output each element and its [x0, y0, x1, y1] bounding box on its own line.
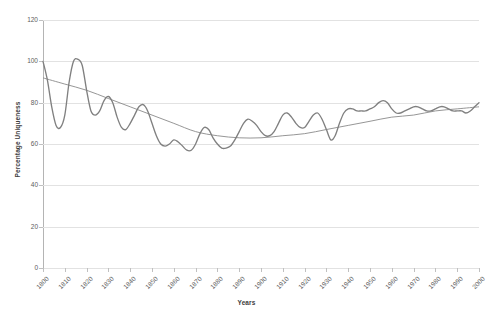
- y-axis-title: Percentage Uniqueness: [14, 80, 21, 200]
- x-axis-tick-label: 1860: [159, 275, 181, 297]
- x-axis-tick-label: 1870: [181, 275, 203, 297]
- chart-container: 020406080100120 180018101820183018401850…: [0, 0, 493, 322]
- plot-area: [43, 20, 479, 268]
- x-axis-tick-label: 1970: [399, 275, 421, 297]
- x-axis-tick: [152, 268, 153, 272]
- data-line: [43, 59, 479, 151]
- x-axis-tick: [65, 268, 66, 272]
- y-axis-tick-label: 40: [4, 181, 38, 188]
- x-axis-tick-label: 1900: [246, 275, 268, 297]
- x-axis-tick: [261, 268, 262, 272]
- y-axis-tick-label: 0: [4, 264, 38, 271]
- x-axis-tick-label: 1880: [202, 275, 224, 297]
- trend-line: [43, 78, 479, 138]
- x-axis-tick: [457, 268, 458, 272]
- y-axis-tick-label: 20: [4, 223, 38, 230]
- x-axis-tick: [108, 268, 109, 272]
- x-axis-title: Years: [0, 299, 493, 306]
- x-axis-tick: [239, 268, 240, 272]
- x-axis-tick-label: 1920: [290, 275, 312, 297]
- x-axis-tick: [435, 268, 436, 272]
- x-axis-tick: [130, 268, 131, 272]
- x-axis-tick-label: 1890: [224, 275, 246, 297]
- x-axis-tick: [370, 268, 371, 272]
- x-axis-tick-label: 1930: [311, 275, 333, 297]
- x-axis-tick-label: 1960: [377, 275, 399, 297]
- x-axis-tick: [43, 268, 44, 272]
- x-axis-tick: [283, 268, 284, 272]
- x-axis-tick-label: 1950: [355, 275, 377, 297]
- x-axis-tick-label: 2000: [464, 275, 486, 297]
- x-axis-tick: [348, 268, 349, 272]
- x-axis-tick: [414, 268, 415, 272]
- x-axis-tick-label: 1940: [333, 275, 355, 297]
- x-axis-tick-label: 1980: [420, 275, 442, 297]
- x-axis-tick-label: 1830: [93, 275, 115, 297]
- x-axis-tick-label: 1820: [72, 275, 94, 297]
- x-axis-tick: [196, 268, 197, 272]
- x-axis-tick: [174, 268, 175, 272]
- x-axis-tick-label: 1850: [137, 275, 159, 297]
- x-axis-tick: [392, 268, 393, 272]
- x-axis-tick: [217, 268, 218, 272]
- y-axis-tick-label: 80: [4, 99, 38, 106]
- series-layer: [43, 20, 479, 268]
- y-axis-tick-label: 120: [4, 16, 38, 23]
- y-axis-tick-label: 100: [4, 57, 38, 64]
- x-axis-tick: [479, 268, 480, 272]
- x-axis-tick-label: 1810: [50, 275, 72, 297]
- x-axis-tick-label: 1910: [268, 275, 290, 297]
- y-axis-tick-label: 60: [4, 140, 38, 147]
- x-axis-tick-label: 1840: [115, 275, 137, 297]
- x-axis-tick-label: 1990: [442, 275, 464, 297]
- x-axis-tick: [87, 268, 88, 272]
- x-axis-tick: [326, 268, 327, 272]
- x-axis-tick: [305, 268, 306, 272]
